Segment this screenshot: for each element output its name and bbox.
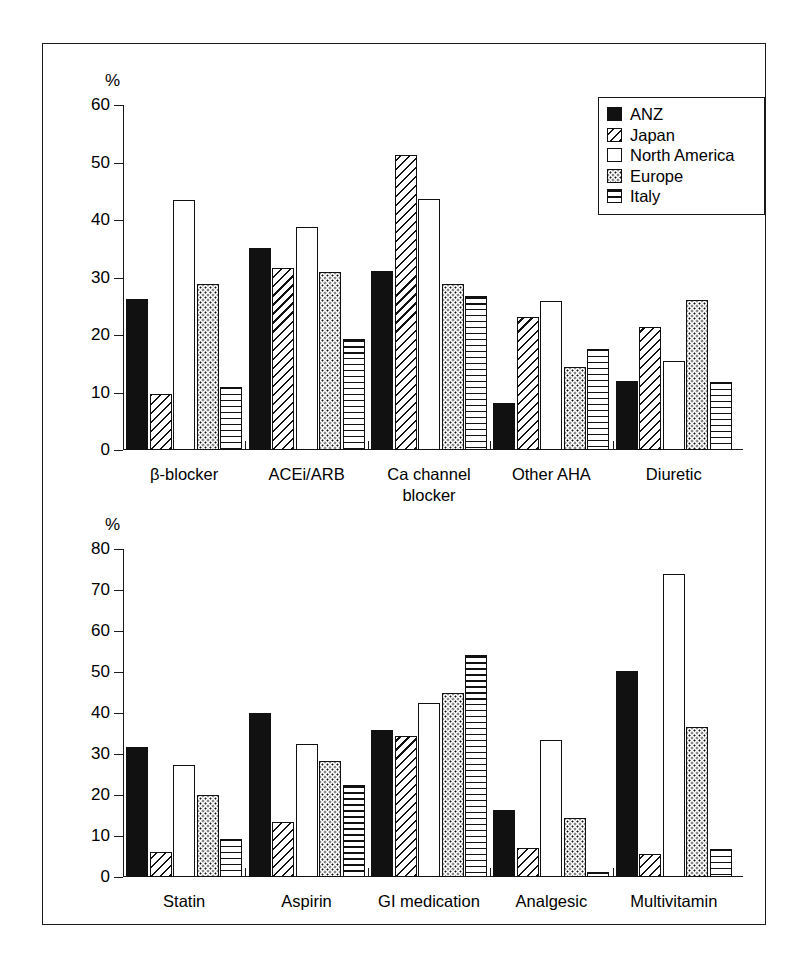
- legend-label: Japan: [630, 127, 675, 144]
- chart-panel-top: % 0102030405060β-blockerACEi/ARBCa chann…: [43, 50, 765, 482]
- y-axis-tick: [114, 335, 123, 336]
- bar-japan: [272, 822, 294, 877]
- y-axis-tick: [114, 163, 123, 164]
- legend-item-northamerica: North America: [607, 145, 754, 166]
- y-axis-unit-label-bottom: %: [105, 516, 120, 533]
- bar-italy: [710, 849, 732, 877]
- bar-anz: [371, 271, 393, 450]
- x-axis-group-separator: [245, 441, 246, 450]
- x-axis-group-label: Diuretic: [613, 464, 735, 485]
- bar-europe: [197, 284, 219, 450]
- bar-japan: [639, 327, 661, 450]
- legend-item-europe: Europe: [607, 166, 754, 187]
- bar-northamerica: [296, 227, 318, 450]
- y-axis-tick: [114, 393, 123, 394]
- bar-anz: [493, 810, 515, 877]
- y-axis-tick: [114, 278, 123, 279]
- bar-japan: [517, 317, 539, 450]
- x-axis-group-label: Analgesic: [490, 891, 612, 912]
- x-axis-group-label: GI medication: [368, 891, 490, 912]
- bar-anz: [249, 248, 271, 450]
- bar-europe: [686, 727, 708, 877]
- legend: ANZJapanNorth AmericaEuropeItaly: [598, 97, 765, 215]
- bar-northamerica: [173, 200, 195, 450]
- x-axis-group-label: Other AHA: [490, 464, 612, 485]
- x-axis-group-separator: [245, 868, 246, 877]
- y-axis-tick: [114, 220, 123, 221]
- bar-northamerica: [418, 199, 440, 450]
- x-axis-group-label: ACEi/ARB: [245, 464, 367, 485]
- bar-japan: [395, 155, 417, 450]
- bar-anz: [249, 713, 271, 877]
- y-axis-tick: [114, 713, 123, 714]
- bar-japan: [150, 852, 172, 877]
- y-axis-tick: [114, 672, 123, 673]
- y-axis-tick: [114, 877, 123, 878]
- y-axis-tick: [114, 631, 123, 632]
- y-axis-unit-label-top: %: [105, 72, 120, 89]
- bar-northamerica: [296, 744, 318, 877]
- x-axis-group-separator: [490, 441, 491, 450]
- x-axis-group-label: Multivitamin: [613, 891, 735, 912]
- bar-northamerica: [663, 574, 685, 877]
- bar-anz: [493, 403, 515, 450]
- bar-anz: [616, 671, 638, 877]
- bar-italy: [220, 839, 242, 877]
- y-axis-line-top: [123, 105, 124, 450]
- bar-italy: [465, 296, 487, 450]
- bar-northamerica: [418, 703, 440, 877]
- bar-europe: [197, 795, 219, 877]
- bar-italy: [343, 785, 365, 877]
- legend-label: Europe: [630, 168, 683, 185]
- x-axis-group-label: β-blocker: [123, 464, 245, 485]
- x-axis-group-label: Statin: [123, 891, 245, 912]
- legend-label: Italy: [630, 188, 660, 205]
- x-axis-group-separator: [368, 868, 369, 877]
- bar-italy: [587, 349, 609, 450]
- legend-label: North America: [630, 147, 735, 164]
- x-axis-group-label: Aspirin: [245, 891, 367, 912]
- bar-italy: [465, 655, 487, 877]
- bar-anz: [126, 299, 148, 450]
- plot-area-bottom: 01020304050607080StatinAspirinGI medicat…: [123, 549, 735, 877]
- legend-swatch-white-empty-icon: [607, 148, 622, 162]
- y-axis-line-bottom: [123, 549, 124, 877]
- legend-item-japan: Japan: [607, 125, 754, 146]
- y-axis-tick: [114, 105, 123, 106]
- bar-italy: [220, 387, 242, 450]
- bar-europe: [442, 284, 464, 450]
- y-axis-tick: [114, 795, 123, 796]
- x-axis-group-separator: [613, 441, 614, 450]
- x-axis-group-separator: [613, 868, 614, 877]
- figure-frame: % 0102030405060β-blockerACEi/ARBCa chann…: [42, 43, 766, 925]
- bar-europe: [686, 300, 708, 450]
- legend-label: ANZ: [630, 106, 663, 123]
- x-axis-group-separator: [490, 868, 491, 877]
- bar-japan: [395, 736, 417, 877]
- y-axis-tick: [114, 450, 123, 451]
- legend-item-italy: Italy: [607, 186, 754, 207]
- bar-italy: [587, 872, 609, 877]
- bar-northamerica: [540, 740, 562, 877]
- legend-swatch-solid-black-icon: [607, 107, 622, 121]
- bar-japan: [639, 854, 661, 877]
- legend-swatch-diagonal-hatch-icon: [607, 128, 622, 142]
- bar-italy: [710, 382, 732, 450]
- bar-europe: [564, 367, 586, 450]
- y-axis-tick: [114, 836, 123, 837]
- legend-item-anz: ANZ: [607, 104, 754, 125]
- legend-swatch-horizontal-lines-icon: [607, 189, 622, 203]
- bar-europe: [319, 272, 341, 450]
- bar-anz: [371, 730, 393, 877]
- y-axis-tick: [114, 754, 123, 755]
- bar-italy: [343, 339, 365, 450]
- y-axis-tick: [114, 549, 123, 550]
- bar-europe: [564, 818, 586, 877]
- legend-swatch-dotted-icon: [607, 169, 622, 183]
- bar-northamerica: [663, 361, 685, 450]
- bar-japan: [517, 848, 539, 877]
- bar-anz: [126, 747, 148, 877]
- bar-japan: [150, 394, 172, 450]
- bar-japan: [272, 268, 294, 450]
- chart-panel-bottom: % 01020304050607080StatinAspirinGI medic…: [43, 492, 765, 924]
